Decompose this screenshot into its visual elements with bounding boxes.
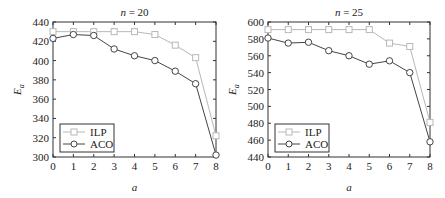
y-tick-label: 520 xyxy=(248,84,265,96)
marker-square xyxy=(366,27,372,33)
marker-circle xyxy=(346,53,352,59)
y-tick-label: 480 xyxy=(248,117,265,129)
x-tick-label: 8 xyxy=(213,160,219,172)
marker-circle xyxy=(427,139,433,145)
y-tick-label: 440 xyxy=(33,16,50,28)
x-tick-label: 6 xyxy=(387,160,393,172)
marker-circle xyxy=(172,68,178,74)
marker-circle xyxy=(131,53,137,59)
marker-circle xyxy=(366,61,372,67)
series-line-ilp xyxy=(53,32,216,136)
x-tick-label: 3 xyxy=(111,160,117,172)
marker-circle xyxy=(386,58,392,64)
y-tick-label: 460 xyxy=(248,134,265,146)
x-axis-label: a xyxy=(132,181,138,193)
x-tick-label: 0 xyxy=(265,160,271,172)
marker-circle xyxy=(91,32,97,38)
marker-square xyxy=(50,29,56,35)
marker-circle xyxy=(70,31,76,37)
x-tick-label: 5 xyxy=(152,160,158,172)
x-tick-label: 7 xyxy=(193,160,199,172)
legend-label: ACO xyxy=(90,138,113,150)
marker-square xyxy=(152,32,158,38)
y-tick-label: 360 xyxy=(33,93,50,105)
marker-circle xyxy=(407,69,413,75)
y-tick-label: 580 xyxy=(248,33,265,45)
marker-square xyxy=(346,27,352,33)
y-tick-label: 600 xyxy=(248,16,265,28)
x-tick-label: 4 xyxy=(346,160,352,172)
marker-square xyxy=(427,119,433,125)
y-tick-label: 500 xyxy=(248,100,265,112)
y-axis-label: Ea xyxy=(11,84,26,96)
marker-circle xyxy=(152,57,158,63)
y-tick-label: 400 xyxy=(33,55,50,67)
legend-label: ILP xyxy=(305,126,322,138)
x-axis-label: a xyxy=(346,181,352,193)
y-tick-label: 300 xyxy=(33,151,50,163)
legend: ILPACO xyxy=(275,124,329,152)
x-tick-label: 1 xyxy=(71,160,77,172)
legend-label: ACO xyxy=(305,138,328,150)
marker-circle xyxy=(326,47,332,53)
x-tick-label: 0 xyxy=(50,160,56,172)
chart-title: n = 20 xyxy=(120,6,149,18)
chart-title: n = 25 xyxy=(335,6,364,18)
marker-circle xyxy=(305,39,311,45)
marker-square xyxy=(285,27,291,33)
x-tick-label: 4 xyxy=(132,160,138,172)
marker-square xyxy=(326,27,332,33)
marker-square xyxy=(111,29,117,35)
y-axis-label: Ea xyxy=(226,84,241,96)
y-tick-label: 380 xyxy=(33,74,50,86)
x-tick-label: 1 xyxy=(286,160,292,172)
marker-square xyxy=(193,55,199,61)
marker-square xyxy=(172,42,178,48)
x-tick-label: 2 xyxy=(306,160,312,172)
y-tick-label: 440 xyxy=(248,151,265,163)
marker-circle xyxy=(213,152,219,158)
series-line-ilp xyxy=(268,30,430,123)
x-tick-label: 8 xyxy=(427,160,433,172)
chart-figure: n = 20300320340360380400420440012345678a… xyxy=(0,0,445,198)
marker-square xyxy=(407,43,413,49)
marker-square xyxy=(213,133,219,139)
y-tick-label: 560 xyxy=(248,50,265,62)
marker-circle xyxy=(265,35,271,41)
marker-circle xyxy=(285,40,291,46)
marker-square xyxy=(132,29,138,35)
marker-square xyxy=(306,27,312,33)
x-tick-label: 3 xyxy=(326,160,332,172)
x-tick-label: 7 xyxy=(407,160,413,172)
y-tick-label: 420 xyxy=(33,35,50,47)
legend: ILPACO xyxy=(60,124,114,152)
marker-square xyxy=(387,40,393,46)
marker-square xyxy=(265,27,271,33)
x-tick-label: 6 xyxy=(173,160,179,172)
y-tick-label: 540 xyxy=(248,67,265,79)
legend-label: ILP xyxy=(90,126,107,138)
marker-circle xyxy=(111,46,117,52)
marker-circle xyxy=(50,35,56,41)
chart-panel-1: n = 254404604805005205405605806000123456… xyxy=(226,6,433,193)
chart-panel-0: n = 20300320340360380400420440012345678a… xyxy=(11,6,219,193)
y-tick-label: 340 xyxy=(33,112,50,124)
x-tick-label: 5 xyxy=(367,160,373,172)
y-tick-label: 320 xyxy=(33,132,50,144)
marker-circle xyxy=(192,81,198,87)
x-tick-label: 2 xyxy=(91,160,97,172)
